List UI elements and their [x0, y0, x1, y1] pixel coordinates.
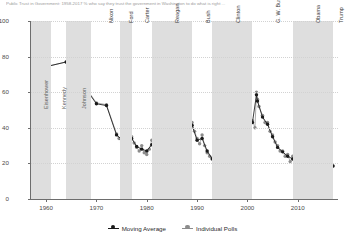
president-label-ford: Ford — [128, 12, 134, 23]
y-tick-label-80: 80 — [0, 53, 9, 60]
individual-poll-point — [198, 142, 201, 145]
president-label-g-w-bush: G. W. Bush — [275, 0, 281, 23]
legend-item-individual-polls[interactable]: Individual Polls — [182, 225, 237, 232]
chart-title-cropped: Public Trust in Government: 1958-2017 % … — [6, 0, 306, 8]
y-tick-mark-100 — [28, 21, 30, 22]
president-label-bush: Bush — [205, 10, 211, 23]
president-label-nixon: Nixon — [108, 9, 114, 23]
moving-average-point — [105, 104, 108, 107]
band-reagan — [152, 21, 192, 199]
president-label-johnson: Johnson — [81, 88, 87, 109]
moving-average-point — [195, 139, 198, 142]
y-tick-mark-0 — [28, 199, 30, 200]
y-tick-label-20: 20 — [0, 159, 9, 166]
x-tick-label-1990: 1990 — [182, 204, 212, 211]
president-label-clinton: Clinton — [235, 6, 241, 23]
chart-root: Public Trust in Government: 1958-2017 % … — [0, 0, 345, 241]
legend-marker-moving-average-icon — [108, 225, 119, 232]
moving-average-point — [205, 149, 208, 152]
y-tick-mark-60 — [28, 92, 30, 93]
gridline-80 — [31, 57, 338, 58]
gridline-100 — [31, 21, 338, 22]
plot-area: EisenhowerKennedyJohnsonNixonFordCarterR… — [31, 21, 338, 199]
president-label-reagan: Reagan — [174, 4, 180, 23]
x-tick-label-1970: 1970 — [81, 204, 111, 211]
y-tick-label-0: 0 — [0, 195, 9, 202]
x-tick-label-1980: 1980 — [132, 204, 162, 211]
x-axis-line — [30, 199, 338, 200]
band-johnson — [66, 21, 92, 199]
president-label-obama: Obama — [315, 5, 321, 23]
y-axis-line — [30, 21, 31, 199]
x-tick-mark-1990 — [197, 199, 198, 202]
legend-label-individual-polls: Individual Polls — [196, 225, 237, 232]
president-label-trump: Trump — [338, 7, 344, 23]
moving-average-point — [95, 102, 98, 105]
y-tick-mark-40 — [28, 128, 30, 129]
legend-marker-individual-polls-icon — [182, 225, 193, 232]
x-tick-mark-1970 — [96, 199, 97, 202]
legend-item-moving-average[interactable]: Moving Average — [108, 225, 166, 232]
y-tick-mark-80 — [28, 57, 30, 58]
moving-average-point — [286, 155, 289, 158]
chart-legend: Moving AverageIndividual Polls — [0, 222, 345, 234]
gridline-40 — [31, 128, 338, 129]
gridline-60 — [31, 92, 338, 93]
y-tick-label-40: 40 — [0, 124, 9, 131]
moving-average-point — [200, 137, 203, 140]
individual-poll-point — [145, 153, 148, 156]
moving-average-point — [266, 123, 269, 126]
moving-average-point — [256, 99, 259, 102]
x-tick-label-1960: 1960 — [31, 204, 61, 211]
x-tick-mark-1980 — [147, 199, 148, 202]
moving-average-point — [145, 149, 148, 152]
x-tick-mark-1960 — [46, 199, 47, 202]
y-tick-mark-20 — [28, 163, 30, 164]
moving-average-point — [255, 93, 258, 96]
moving-average-point — [135, 145, 138, 148]
moving-average-point — [140, 147, 143, 150]
band-obama — [293, 21, 333, 199]
x-tick-mark-2000 — [247, 199, 248, 202]
president-label-carter: Carter — [144, 7, 150, 23]
band-clinton — [212, 21, 252, 199]
band-eisenhower — [31, 21, 51, 199]
moving-average-point — [261, 115, 264, 118]
gridline-20 — [31, 163, 338, 164]
band-ford — [120, 21, 132, 199]
legend-label-moving-average: Moving Average — [122, 225, 166, 232]
x-tick-label-2010: 2010 — [283, 204, 313, 211]
individual-poll-point — [140, 144, 143, 147]
x-tick-label-2000: 2000 — [232, 204, 262, 211]
moving-average-point — [276, 146, 279, 149]
x-tick-mark-2010 — [298, 199, 299, 202]
moving-average-point — [271, 135, 274, 138]
moving-average-point — [115, 133, 118, 136]
individual-poll-point — [200, 133, 203, 136]
y-tick-label-60: 60 — [0, 88, 9, 95]
moving-average-point — [281, 150, 284, 153]
y-tick-label-100: 100 — [0, 17, 9, 24]
president-label-eisenhower: Eisenhower — [43, 80, 49, 109]
president-label-kennedy: Kennedy — [61, 87, 67, 109]
